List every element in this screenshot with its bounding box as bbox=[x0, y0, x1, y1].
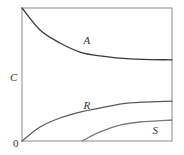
series-label-r: R bbox=[83, 99, 91, 111]
series-label-a: A bbox=[83, 34, 91, 46]
curves-group bbox=[22, 8, 172, 141]
series-line-s bbox=[82, 120, 172, 141]
series-line-a bbox=[22, 8, 172, 60]
chart: ARS C 0 bbox=[0, 0, 184, 155]
series-label-s: S bbox=[153, 124, 159, 136]
y-axis-label: C bbox=[10, 71, 18, 83]
origin-label: 0 bbox=[13, 137, 19, 149]
